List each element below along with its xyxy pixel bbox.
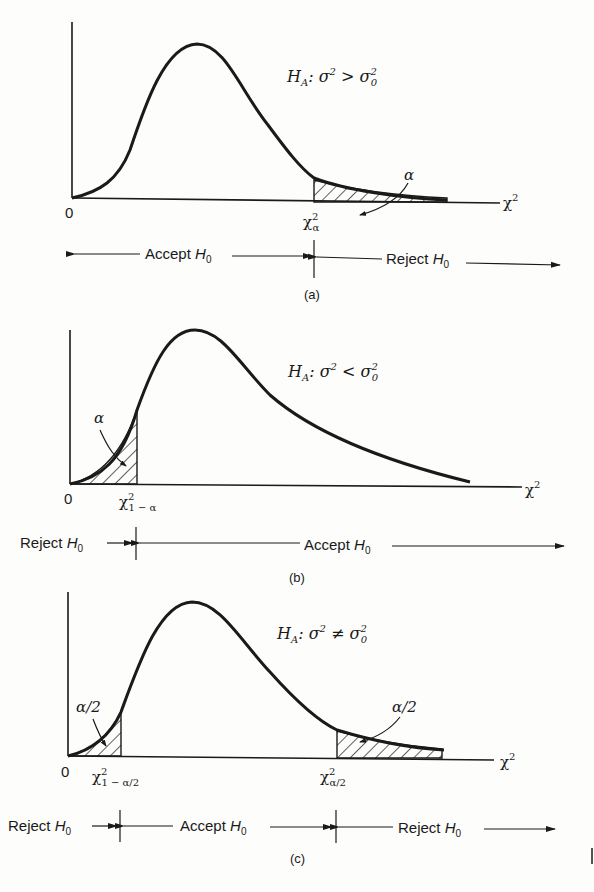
panel-b-critical-value: χ21 − α xyxy=(119,492,156,513)
panel-c-right-critical-value: χ2α/2 xyxy=(320,767,346,788)
panel-c-accept-region-label: Accept H0 xyxy=(180,818,246,837)
panel-a-reject-arrow-left xyxy=(317,257,382,259)
panel-b-origin-label: 0 xyxy=(64,491,72,506)
panel-c-origin-label: 0 xyxy=(61,764,69,779)
panel-a-plot xyxy=(72,22,560,278)
panel-a-origin-label: 0 xyxy=(65,205,73,220)
panel-b-alpha-label: α xyxy=(94,411,104,426)
panel-c-axis-label: χ2 xyxy=(500,752,515,770)
panel-a-chi-square-curve xyxy=(72,44,447,200)
panel-b-axis-label: χ2 xyxy=(525,480,540,498)
panel-a-accept-region-label: Accept H0 xyxy=(145,246,211,265)
panel-c-left-critical-value: χ21 − α/2 xyxy=(92,767,139,788)
panel-b-hypothesis: HA: σ2 < σ20 xyxy=(288,362,378,383)
panel-a-hypothesis: HA: σ2 > σ20 xyxy=(287,67,377,88)
panel-b-x-axis xyxy=(70,484,522,487)
panel-c-hypothesis: HA: σ2 ≠ σ20 xyxy=(277,624,367,645)
panel-c-chi-square-curve xyxy=(68,602,444,756)
panel-b-caption: (b) xyxy=(289,571,305,584)
panel-a-axis-label: χ2 xyxy=(503,193,518,211)
panel-c-reject-left-region-label: Reject H0 xyxy=(8,818,71,837)
panel-a-reject-region-label: Reject H0 xyxy=(386,251,449,270)
panel-b-accept-region-label: Accept H0 xyxy=(304,537,370,556)
panel-c-left-rejection-area xyxy=(68,712,121,756)
panel-b-reject-region-label: Reject H0 xyxy=(20,535,83,554)
panel-a-critical-value: χ2α xyxy=(303,212,319,233)
panel-c-caption: (c) xyxy=(290,852,305,865)
panel-c-left-alpha-label: α/2 xyxy=(76,700,101,715)
panel-c-reject-right-region-label: Reject H0 xyxy=(398,820,461,839)
panel-a-alpha-label: α xyxy=(404,168,414,183)
panel-a-reject-arrow-right xyxy=(466,263,560,265)
panel-a-caption: (a) xyxy=(304,288,320,301)
panel-c-right-alpha-label: α/2 xyxy=(392,700,417,715)
